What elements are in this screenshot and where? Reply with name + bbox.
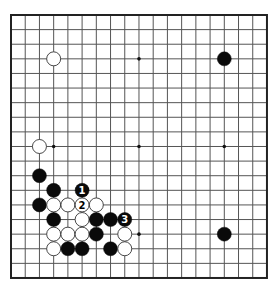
white-stone <box>47 52 61 66</box>
white-stone-circle <box>75 213 89 227</box>
black-stone-circle <box>217 52 231 66</box>
black-stone-circle <box>89 227 103 241</box>
black-stone <box>47 183 61 197</box>
white-stone <box>47 198 61 212</box>
black-stone: 1 <box>75 183 89 197</box>
black-stone-circle <box>217 227 231 241</box>
black-stone-circle <box>47 183 61 197</box>
black-stone <box>32 169 46 183</box>
white-stone-circle <box>89 198 103 212</box>
black-stone-circle <box>104 242 118 256</box>
black-stone <box>61 242 75 256</box>
black-stone <box>217 52 231 66</box>
black-stone <box>47 213 61 227</box>
star-point <box>52 145 56 149</box>
black-stone: 3 <box>118 213 132 227</box>
white-stone-circle <box>47 198 61 212</box>
go-board[interactable]: 123 <box>0 0 274 291</box>
black-stone-circle <box>75 242 89 256</box>
black-stone <box>75 242 89 256</box>
move-number-label: 2 <box>79 200 86 211</box>
move-number-label: 1 <box>79 185 86 196</box>
stones: 123 <box>32 52 231 256</box>
black-stone-circle <box>32 198 46 212</box>
black-stone <box>217 227 231 241</box>
black-stone-circle <box>61 242 75 256</box>
white-stone <box>47 242 61 256</box>
white-stone <box>75 213 89 227</box>
white-stone-circle <box>61 227 75 241</box>
white-stone <box>61 227 75 241</box>
white-stone <box>61 198 75 212</box>
star-point <box>223 145 227 149</box>
white-stone-circle <box>118 227 132 241</box>
white-stone-circle <box>61 198 75 212</box>
white-stone <box>118 242 132 256</box>
black-stone-circle <box>104 213 118 227</box>
black-stone <box>104 213 118 227</box>
star-point <box>137 232 141 236</box>
white-stone <box>47 227 61 241</box>
black-stone <box>104 242 118 256</box>
go-board-svg[interactable]: 123 <box>0 0 274 291</box>
white-stone <box>89 198 103 212</box>
white-stone-circle <box>47 227 61 241</box>
black-stone-circle <box>47 213 61 227</box>
white-stone: 2 <box>75 198 89 212</box>
move-number-label: 3 <box>121 214 128 225</box>
white-stone-circle <box>118 242 132 256</box>
black-stone <box>89 227 103 241</box>
star-point <box>137 145 141 149</box>
white-stone-circle <box>47 242 61 256</box>
star-point <box>137 57 141 61</box>
black-stone <box>89 213 103 227</box>
white-stone-circle <box>32 139 46 153</box>
white-stone <box>118 227 132 241</box>
black-stone-circle <box>32 169 46 183</box>
black-stone <box>32 198 46 212</box>
black-stone-circle <box>89 213 103 227</box>
white-stone <box>32 139 46 153</box>
white-stone-circle <box>47 52 61 66</box>
white-stone-circle <box>75 227 89 241</box>
white-stone <box>75 227 89 241</box>
